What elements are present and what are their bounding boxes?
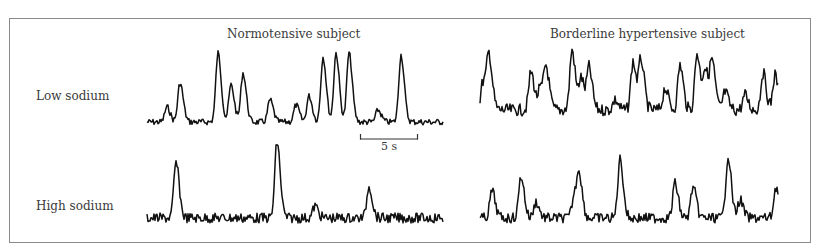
scale-bar-label: 5 s: [381, 140, 397, 153]
signal-traces: [147, 49, 778, 223]
traces-plot: [0, 0, 816, 252]
scale-bar: [360, 134, 418, 140]
trace-high-sodium-normotensive: [147, 145, 443, 223]
trace-low-sodium-normotensive: [147, 51, 443, 125]
trace-high-sodium-borderline: [480, 155, 778, 223]
trace-low-sodium-borderline: [480, 49, 778, 116]
